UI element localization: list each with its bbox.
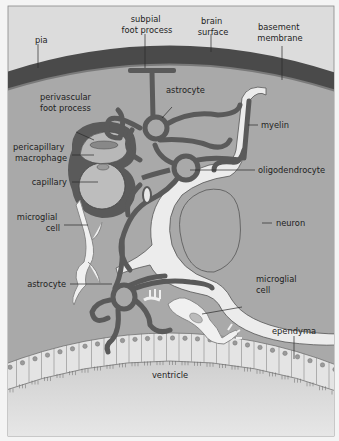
label-ependyma: ependyma (272, 326, 316, 336)
label-neuron: neuron (276, 218, 305, 228)
label-astrocyte-bottom: astrocyte (27, 279, 66, 289)
label-pia: pia (35, 35, 48, 45)
astrocyte-top-body (145, 117, 167, 139)
label-astrocyte-top: astrocyte (166, 85, 205, 95)
label-perivascular-foot-process: perivascular foot process (40, 92, 94, 113)
label-capillary: capillary (32, 177, 67, 187)
label-brain-surface: brain surface (198, 16, 229, 37)
label-myelin: myelin (261, 120, 289, 130)
small-vesicle (143, 187, 151, 203)
subpial-foot-process (128, 68, 176, 73)
label-pericapillary-macrophage: pericapillary macrophage (13, 142, 67, 163)
label-basement-membrane: basement membrane (257, 22, 302, 43)
cns-cell-diagram: pia subpial foot process brain surface b… (0, 0, 339, 441)
astrocyte-bottom-body (113, 285, 135, 309)
label-ventricle: ventricle (152, 370, 188, 380)
label-oligodendrocyte: oligodendrocyte (258, 165, 325, 175)
